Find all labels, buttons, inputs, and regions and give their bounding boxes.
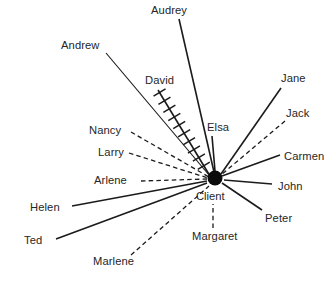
hub-node-marker[interactable] [208,171,223,186]
spoke-line-arlene [141,179,207,181]
node-label-margaret: Margaret [192,230,238,242]
label-layer: AudreyAndrewDavidJaneJackElsaCarmenNancy… [24,4,324,267]
hatch-tick [163,105,175,112]
spoke-ted[interactable] [56,183,207,239]
spoke-line-larry [129,153,208,178]
spoke-carmen[interactable] [222,155,280,176]
node-label-jack: Jack [286,107,310,119]
diagram-canvas: AudreyAndrewDavidJaneJackElsaCarmenNancy… [0,0,336,292]
edge-layer [56,19,285,255]
hatch-tick [158,97,170,104]
node-label-peter: Peter [265,212,292,224]
node-label-jane: Jane [281,72,306,84]
spoke-larry[interactable] [129,153,208,178]
spoke-arlene[interactable] [141,179,207,181]
node-label-helen: Helen [30,201,60,213]
spoke-jane[interactable] [221,88,281,174]
node-label-marlene: Marlene [93,255,134,267]
sociogram-diagram: AudreyAndrewDavidJaneJackElsaCarmenNancy… [0,0,336,292]
node-label-andrew: Andrew [61,39,100,51]
node-label-john: John [278,180,303,192]
node-label-nancy: Nancy [89,124,122,136]
hub-node-label: Client [196,190,225,202]
node-label-arlene: Arlene [94,174,127,186]
hatch-tick [188,146,200,153]
hub-marker-layer [208,171,223,186]
node-label-larry: Larry [98,146,124,158]
spoke-audrey[interactable] [179,19,214,172]
node-label-ted: Ted [24,234,42,246]
spoke-john[interactable] [224,180,272,184]
spoke-line-john [224,180,272,184]
spoke-line-audrey [179,19,214,172]
hatch-tick [173,121,185,128]
node-label-elsa: Elsa [207,121,230,133]
node-label-carmen: Carmen [284,150,324,162]
spoke-line-peter [222,183,262,210]
hatch-tick [168,113,180,120]
spoke-line-helen [72,181,207,206]
spoke-line-carmen [222,155,280,176]
hatch-tick [183,138,195,145]
spoke-line-jane [221,88,281,174]
node-label-david: David [145,74,174,86]
hatch-tick [178,130,190,137]
hatch-tick [154,89,166,96]
node-label-audrey: Audrey [151,4,187,16]
spoke-helen[interactable] [72,181,207,206]
spoke-peter[interactable] [222,183,262,210]
spoke-line-ted [56,183,207,239]
